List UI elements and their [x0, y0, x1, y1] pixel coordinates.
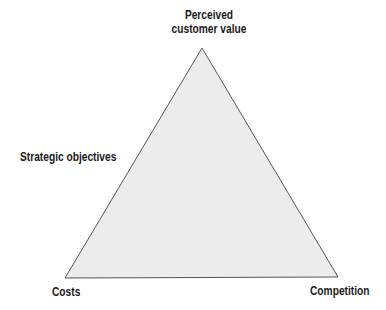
apex-label: Perceived customer value: [170, 8, 248, 36]
apex-label-line-2: customer value: [170, 22, 248, 36]
bottom-right-label-competition: Competition: [310, 284, 370, 298]
bottom-left-label-costs: Costs: [52, 285, 80, 299]
apex-label-line-1: Perceived: [170, 8, 248, 22]
side-label-strategic-objectives: Strategic objectives: [20, 150, 116, 164]
